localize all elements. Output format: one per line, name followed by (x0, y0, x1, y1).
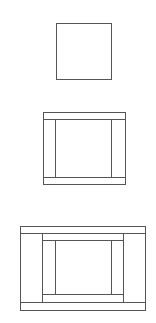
stage-2-framed-square (44, 113, 126, 185)
outer-rect (21, 227, 146, 311)
stage-1-square (57, 24, 112, 80)
outer-rect (57, 24, 112, 80)
diagram-canvas (0, 0, 156, 323)
stage-3-double-framed-square (21, 227, 146, 311)
